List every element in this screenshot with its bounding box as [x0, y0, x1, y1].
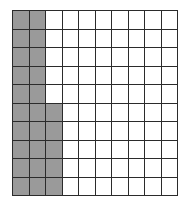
grid-cell-unshaded	[79, 104, 95, 122]
grid-cell-unshaded	[162, 104, 178, 122]
grid-cell-unshaded	[129, 30, 145, 48]
grid-cell-unshaded	[129, 122, 145, 140]
grid-container	[12, 10, 178, 196]
grid-cell-unshaded	[112, 85, 128, 103]
grid-cell-unshaded	[162, 85, 178, 103]
grid-cell-unshaded	[79, 85, 95, 103]
grid-cell-unshaded	[145, 67, 161, 85]
grid-cell-shaded	[30, 141, 46, 159]
grid-cell-unshaded	[46, 85, 62, 103]
grid-cell-shaded	[13, 85, 29, 103]
grid-cell-unshaded	[96, 122, 112, 140]
grid-cell-unshaded	[129, 11, 145, 29]
grid-cell-unshaded	[112, 122, 128, 140]
grid-cell-unshaded	[112, 48, 128, 66]
grid-cell-unshaded	[63, 11, 79, 29]
grid-cell-unshaded	[162, 48, 178, 66]
grid-cell-shaded	[30, 122, 46, 140]
grid-cell-unshaded	[46, 48, 62, 66]
grid-cell-unshaded	[112, 178, 128, 196]
grid-cell-shaded	[46, 122, 62, 140]
grid-cell-unshaded	[63, 122, 79, 140]
grid-cell-unshaded	[63, 141, 79, 159]
grid-cell-unshaded	[112, 104, 128, 122]
grid-cell-unshaded	[162, 30, 178, 48]
figure-canvas	[0, 0, 193, 207]
grid-cell-unshaded	[79, 11, 95, 29]
grid-cell-shaded	[30, 104, 46, 122]
grid-cell-shaded	[46, 104, 62, 122]
grid-cell-unshaded	[112, 159, 128, 177]
grid-cell-shaded	[30, 67, 46, 85]
grid-cell-unshaded	[63, 85, 79, 103]
grid-cell-unshaded	[112, 30, 128, 48]
grid-cell-unshaded	[79, 67, 95, 85]
grid-cell-shaded	[30, 11, 46, 29]
grid-cell-unshaded	[63, 159, 79, 177]
grid-cell-unshaded	[162, 141, 178, 159]
grid-cell-unshaded	[129, 104, 145, 122]
grid-cell-unshaded	[112, 67, 128, 85]
grid-cell-unshaded	[162, 122, 178, 140]
grid-cell-unshaded	[129, 178, 145, 196]
grid-cell-unshaded	[96, 85, 112, 103]
grid-cell-unshaded	[96, 104, 112, 122]
grid-cell-unshaded	[96, 178, 112, 196]
grid-cell-unshaded	[46, 67, 62, 85]
grid-cell-unshaded	[145, 85, 161, 103]
grid-cell-shaded	[46, 141, 62, 159]
grid-cell-unshaded	[145, 159, 161, 177]
grid-cell-shaded	[30, 85, 46, 103]
grid-cell-shaded	[13, 122, 29, 140]
grid-cell-unshaded	[129, 67, 145, 85]
grid-cell-unshaded	[79, 48, 95, 66]
grid-cell-unshaded	[145, 178, 161, 196]
grid-cell-unshaded	[79, 159, 95, 177]
grid-cell-shaded	[13, 104, 29, 122]
grid-cell-unshaded	[79, 122, 95, 140]
grid-cell-unshaded	[145, 122, 161, 140]
grid-cell-shaded	[30, 30, 46, 48]
grid-cell-unshaded	[129, 85, 145, 103]
grid-cell-unshaded	[112, 141, 128, 159]
grid-cell-shaded	[13, 48, 29, 66]
grid-cell-unshaded	[96, 159, 112, 177]
grid-cell-unshaded	[79, 178, 95, 196]
grid-cell-unshaded	[63, 30, 79, 48]
grid-cell-unshaded	[96, 11, 112, 29]
grid-cell-unshaded	[96, 141, 112, 159]
grid-cell-unshaded	[96, 30, 112, 48]
grid-cell-unshaded	[162, 159, 178, 177]
grid-cell-unshaded	[46, 11, 62, 29]
grid-cell-unshaded	[46, 30, 62, 48]
grid-cell-unshaded	[96, 48, 112, 66]
grid-cell-shaded	[13, 11, 29, 29]
grid-cell-shaded	[13, 178, 29, 196]
grid-cell-unshaded	[145, 104, 161, 122]
grid-cell-unshaded	[145, 141, 161, 159]
grid-cell-unshaded	[79, 141, 95, 159]
grid-cell-unshaded	[145, 48, 161, 66]
grid-cell-unshaded	[129, 141, 145, 159]
grid-cell-shaded	[30, 48, 46, 66]
grid-cell-shaded	[46, 159, 62, 177]
grid-cell-shaded	[13, 159, 29, 177]
grid-cell-unshaded	[129, 159, 145, 177]
grid-cell-unshaded	[112, 11, 128, 29]
grid-cell-unshaded	[63, 48, 79, 66]
grid-cell-unshaded	[63, 104, 79, 122]
grid-cell-unshaded	[162, 178, 178, 196]
grid-cell-unshaded	[162, 67, 178, 85]
grid-cell-unshaded	[96, 67, 112, 85]
grid-cell-shaded	[13, 67, 29, 85]
grid-cell-unshaded	[162, 11, 178, 29]
grid-cell-unshaded	[145, 11, 161, 29]
grid-cell-shaded	[13, 30, 29, 48]
grid-cell-unshaded	[63, 178, 79, 196]
grid-cell-shaded	[30, 159, 46, 177]
grid-cell-unshaded	[129, 48, 145, 66]
grid-cell-unshaded	[145, 30, 161, 48]
grid-cell-shaded	[13, 141, 29, 159]
grid-cell-shaded	[30, 178, 46, 196]
grid-cell-unshaded	[63, 67, 79, 85]
